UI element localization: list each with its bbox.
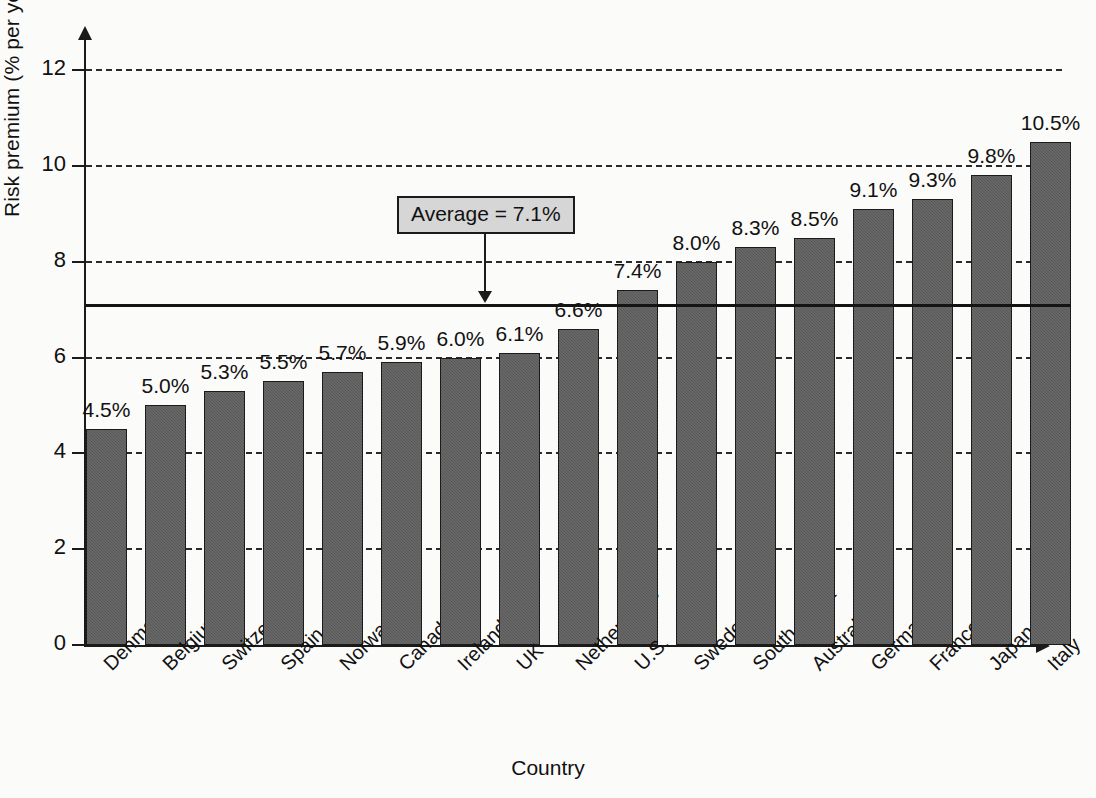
y-tick-label: 0 — [16, 630, 66, 656]
gridline — [86, 69, 1062, 71]
y-tick-label: 4 — [16, 438, 66, 464]
average-callout-arrow-stem — [484, 233, 486, 295]
y-tick-mark — [72, 165, 85, 167]
bar[interactable] — [617, 290, 658, 645]
bar-value-label: 6.6% — [534, 298, 624, 322]
y-tick-label: 2 — [16, 534, 66, 560]
y-tick-label: 10 — [16, 151, 66, 177]
average-callout-label: Average = 7.1% — [397, 196, 575, 234]
y-tick-mark — [72, 261, 85, 263]
y-tick-mark — [72, 452, 85, 454]
bar[interactable] — [676, 262, 717, 645]
y-tick-label: 12 — [16, 55, 66, 81]
bar[interactable] — [971, 175, 1012, 645]
bar[interactable] — [794, 238, 835, 645]
bar[interactable] — [381, 362, 422, 645]
bar[interactable] — [86, 429, 127, 645]
bar-value-label: 7.4% — [593, 259, 683, 283]
bar[interactable] — [735, 247, 776, 645]
bar-value-label: 4.5% — [62, 398, 152, 422]
average-reference-line — [86, 304, 1071, 307]
y-tick-label: 6 — [16, 343, 66, 369]
bar[interactable] — [204, 391, 245, 645]
plot-area: 0246810124.5%Denmark5.0%Belgium5.3%Switz… — [0, 0, 1096, 798]
y-tick-mark — [72, 548, 85, 550]
bar[interactable] — [145, 405, 186, 645]
bar-value-label: 8.5% — [770, 207, 860, 231]
bar[interactable] — [853, 209, 894, 645]
bar-value-label: 9.3% — [888, 168, 978, 192]
bar[interactable] — [322, 372, 363, 645]
bar-value-label: 6.1% — [475, 322, 565, 346]
y-tick-mark — [72, 357, 85, 359]
average-callout-arrow-head-icon — [478, 291, 492, 303]
x-axis-title: Country — [0, 756, 1096, 780]
gridline — [86, 165, 1062, 167]
bar[interactable] — [912, 199, 953, 645]
bar-value-label: 10.5% — [1006, 111, 1096, 135]
y-tick-mark — [72, 69, 85, 71]
y-tick-label: 8 — [16, 247, 66, 273]
bar[interactable] — [558, 329, 599, 645]
risk-premium-bar-chart: Risk premium (% per year) 0246810124.5%D… — [0, 0, 1096, 798]
y-tick-mark — [72, 644, 85, 646]
bar[interactable] — [263, 381, 304, 645]
bar[interactable] — [499, 353, 540, 645]
bar-value-label: 9.8% — [947, 144, 1037, 168]
bar[interactable] — [440, 358, 481, 646]
bar[interactable] — [1030, 142, 1071, 645]
